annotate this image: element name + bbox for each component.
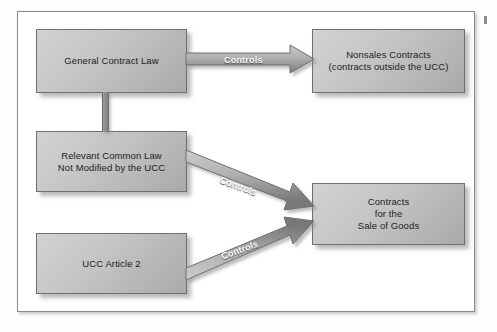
page-corner-mark <box>484 16 487 24</box>
node-contracts-sale-goods-line2: for the <box>358 208 420 220</box>
vertical-connector-bar <box>102 92 109 132</box>
node-nonsales-contracts[interactable]: Nonsales Contracts (contracts outside th… <box>312 29 465 93</box>
node-nonsales-contracts-line2: (contracts outside the UCC) <box>329 61 449 73</box>
node-ucc-article-2-line1: UCC Article 2 <box>82 258 140 270</box>
node-general-contract-law-line1: General Contract Law <box>64 55 158 67</box>
node-contracts-for-sale-of-goods[interactable]: Contracts for the Sale of Goods <box>312 183 465 245</box>
node-ucc-article-2[interactable]: UCC Article 2 <box>36 233 187 294</box>
node-contracts-sale-goods-line1: Contracts <box>358 196 420 208</box>
node-relevant-common-law-line2: Not Modified by the UCC <box>58 162 165 174</box>
arrow-label-controls-top: Controls <box>224 55 263 65</box>
node-nonsales-contracts-line1: Nonsales Contracts <box>329 49 449 61</box>
node-contracts-sale-goods-line3: Sale of Goods <box>358 220 420 232</box>
diagram-canvas: General Contract Law Nonsales Contracts … <box>0 0 497 332</box>
node-relevant-common-law-line1: Relevant Common Law <box>58 150 165 162</box>
node-general-contract-law[interactable]: General Contract Law <box>36 29 187 93</box>
node-relevant-common-law[interactable]: Relevant Common Law Not Modified by the … <box>36 131 187 192</box>
